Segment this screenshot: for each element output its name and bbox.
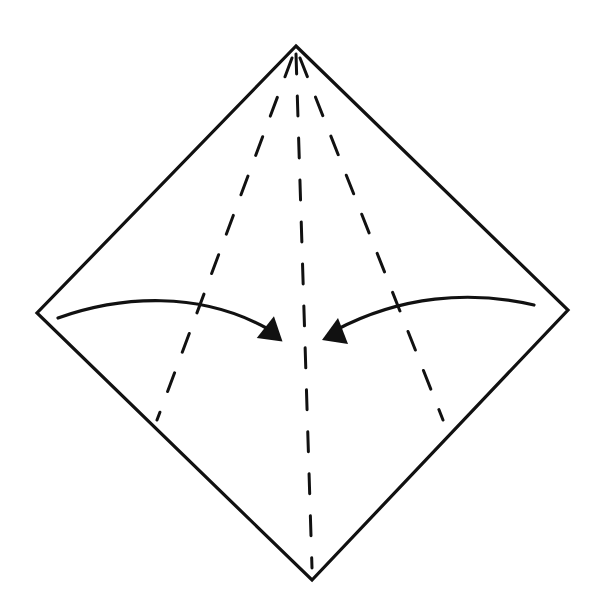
origami-diagram: [0, 0, 598, 616]
